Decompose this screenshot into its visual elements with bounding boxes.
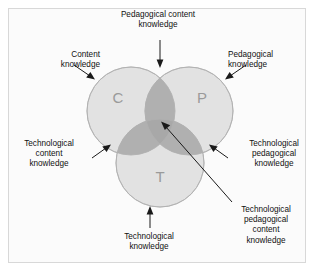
label-line: content — [218, 225, 314, 235]
label-line: content — [8, 149, 90, 159]
label-line: knowledge — [232, 159, 316, 169]
label-technological-pedagogical-knowledge: Technological pedagogical knowledge — [232, 139, 316, 170]
venn-letter-p: P — [197, 89, 207, 106]
label-technological-content-knowledge: Technological content knowledge — [8, 139, 90, 170]
label-technological-pedagogical-content-knowledge: Technological pedagogical content knowle… — [218, 205, 314, 246]
label-line: Content — [18, 50, 100, 60]
label-line: knowledge — [8, 159, 90, 169]
label-line: Pedagogical — [228, 50, 312, 60]
label-line: Technological — [232, 139, 316, 149]
label-line: knowledge — [218, 236, 314, 246]
label-line: Technological — [8, 139, 90, 149]
label-pedagogical-content-knowledge: Pedagogical content knowledge — [88, 10, 228, 30]
venn-letter-c: C — [113, 89, 124, 106]
label-pedagogical-knowledge: Pedagogical knowledge — [228, 50, 312, 70]
label-line: pedagogical — [232, 149, 316, 159]
label-technological-knowledge: Technological knowledge — [94, 232, 204, 252]
tpack-venn-figure: C P T — [0, 0, 319, 279]
label-content-knowledge: Content knowledge — [18, 50, 100, 70]
label-line: knowledge — [94, 242, 204, 252]
venn-letter-t: T — [155, 168, 164, 185]
label-line: knowledge — [88, 20, 228, 30]
label-line: knowledge — [18, 60, 100, 70]
label-line: Technological — [94, 232, 204, 242]
label-line: Technological — [218, 205, 314, 215]
label-line: knowledge — [228, 60, 312, 70]
label-line: pedagogical — [218, 215, 314, 225]
label-line: Pedagogical content — [88, 10, 228, 20]
